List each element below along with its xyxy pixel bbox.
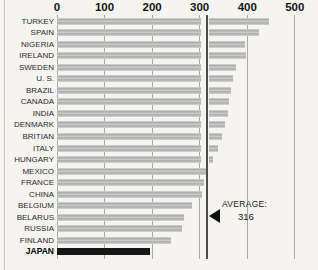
bar bbox=[57, 87, 201, 94]
bar bbox=[209, 41, 246, 48]
bar bbox=[209, 156, 213, 163]
bar bbox=[209, 98, 229, 105]
country-label: RUSSIA bbox=[0, 224, 54, 233]
axis-tick-label: 300 bbox=[190, 1, 209, 13]
bar bbox=[57, 248, 150, 255]
bar bbox=[57, 202, 192, 209]
bar bbox=[57, 18, 201, 25]
country-label: DENMARK bbox=[0, 120, 54, 129]
bar bbox=[57, 156, 201, 163]
bar bbox=[57, 168, 206, 175]
axis-tick-label: 500 bbox=[285, 1, 304, 13]
country-label: INDIA bbox=[0, 109, 54, 118]
bar bbox=[57, 214, 184, 221]
country-label: IRELAND bbox=[0, 51, 54, 60]
bar bbox=[209, 145, 218, 152]
axis-tick-label: 200 bbox=[143, 1, 162, 13]
bar bbox=[57, 133, 201, 140]
country-label: CHINA bbox=[0, 190, 54, 199]
bar bbox=[57, 121, 201, 128]
axis-tick-label: 400 bbox=[238, 1, 257, 13]
average-value: 316 bbox=[238, 211, 254, 222]
bar bbox=[209, 29, 259, 36]
country-label: BRAZIL bbox=[0, 86, 54, 95]
country-label: ITALY bbox=[0, 144, 54, 153]
bar bbox=[57, 145, 201, 152]
bar bbox=[209, 121, 225, 128]
axis-tick-label: 0 bbox=[54, 1, 60, 13]
country-label: U. S. bbox=[0, 74, 54, 83]
country-label: FINLAND bbox=[0, 236, 54, 245]
bar bbox=[57, 41, 201, 48]
country-label: FRANCE bbox=[0, 178, 54, 187]
country-label: MEXICO bbox=[0, 167, 54, 176]
bar bbox=[57, 225, 182, 232]
plot-area: 0100200300400500TURKEYSPAINNIGERIAIRELAN… bbox=[0, 0, 318, 270]
bar bbox=[57, 110, 201, 117]
bar bbox=[209, 87, 231, 94]
gridline-500 bbox=[294, 15, 295, 259]
average-annotation: AVERAGE: 316 bbox=[209, 199, 289, 229]
bar bbox=[57, 191, 202, 198]
country-label: NIGERIA bbox=[0, 40, 54, 49]
country-label: TURKEY bbox=[0, 17, 54, 26]
bar bbox=[57, 237, 171, 244]
bar bbox=[57, 75, 201, 82]
country-label: BRITIAN bbox=[0, 132, 54, 141]
bar bbox=[57, 29, 201, 36]
country-label: JAPAN bbox=[0, 247, 54, 256]
country-label: CANADA bbox=[0, 97, 54, 106]
country-label: BELGIUM bbox=[0, 201, 54, 210]
bar bbox=[57, 179, 204, 186]
bar bbox=[209, 52, 247, 59]
average-label: AVERAGE: bbox=[222, 199, 267, 209]
country-label: HUNGARY bbox=[0, 155, 54, 164]
country-label: SWEDEN bbox=[0, 63, 54, 72]
bar bbox=[57, 98, 201, 105]
country-label: SPAIN bbox=[0, 28, 54, 37]
bar bbox=[209, 133, 223, 140]
bar-chart-figure: 0100200300400500TURKEYSPAINNIGERIAIRELAN… bbox=[0, 0, 318, 270]
bar bbox=[209, 75, 233, 82]
bar bbox=[209, 18, 269, 25]
bar bbox=[209, 64, 236, 71]
axis-tick-label: 100 bbox=[95, 1, 114, 13]
average-marker-left-triangle-icon bbox=[209, 209, 220, 223]
bar bbox=[209, 110, 228, 117]
country-label: BELARUS bbox=[0, 213, 54, 222]
bar bbox=[57, 52, 201, 59]
bar bbox=[57, 64, 201, 71]
